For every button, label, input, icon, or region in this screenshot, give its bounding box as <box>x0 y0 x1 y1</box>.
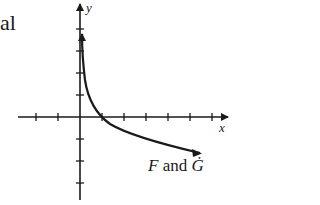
curve-caption: F and Ġ <box>148 156 204 176</box>
y-axis-label: y <box>86 0 92 16</box>
x-axis-label: x <box>219 120 225 136</box>
curve-f-and-g <box>82 34 200 153</box>
caption-and: and <box>158 156 191 175</box>
caption-f: F <box>148 156 158 175</box>
caption-g: Ġ <box>191 156 203 175</box>
